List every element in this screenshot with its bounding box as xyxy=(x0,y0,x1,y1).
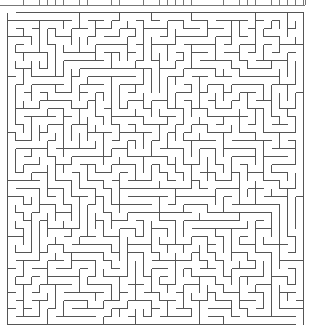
maze-walls xyxy=(8,13,304,325)
previous-maze-edge xyxy=(0,0,306,6)
maze-board xyxy=(0,0,312,330)
